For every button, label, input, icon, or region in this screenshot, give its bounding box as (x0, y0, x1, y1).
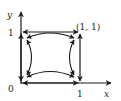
inner-arcs (27, 33, 74, 77)
origin-label: 0 (8, 84, 14, 94)
x-tick-label: 1 (77, 89, 83, 99)
left-arc (27, 40, 32, 75)
top-arc (27, 33, 74, 38)
bottom-arc (27, 72, 74, 78)
x-axis-label: x (104, 89, 109, 99)
phase-portrait-diagram: y x 1 0 1 (1, 1) (0, 0, 121, 101)
point-label: (1, 1) (76, 22, 100, 32)
right-arc (70, 40, 75, 75)
y-axis-label: y (6, 10, 13, 20)
y-tick-label: 1 (8, 28, 14, 38)
